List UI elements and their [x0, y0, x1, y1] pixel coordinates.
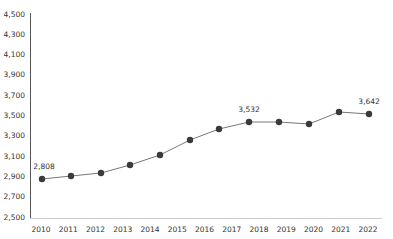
x-tick-label: 2018 [249, 225, 268, 234]
data-points [39, 109, 372, 182]
data-point [336, 109, 342, 115]
data-point [366, 111, 372, 117]
y-tick-label: 3,900 [4, 70, 26, 79]
x-tick-label: 2015 [168, 225, 187, 234]
data-point [127, 162, 133, 168]
y-tick-label: 3,100 [4, 152, 26, 161]
data-point [187, 137, 193, 143]
x-tick-label: 2017 [222, 225, 241, 234]
data-label: 3,642 [358, 97, 380, 106]
data-point [68, 173, 74, 179]
y-tick-label: 2,900 [4, 172, 26, 181]
y-tick-label: 2,500 [4, 213, 26, 222]
x-tick-label: 2011 [59, 225, 78, 234]
x-axis-tick-labels: 2010201120122013201420152016201720182019… [31, 225, 377, 234]
y-tick-label: 2,700 [4, 192, 26, 201]
series-line [42, 112, 369, 179]
data-point [306, 121, 312, 127]
x-tick-label: 2019 [277, 225, 296, 234]
line-chart: 2,5002,7002,9003,1003,3003,5003,7003,900… [0, 0, 393, 239]
y-tick-label: 4,500 [4, 10, 26, 19]
x-tick-label: 2020 [304, 225, 323, 234]
y-tick-label: 4,300 [4, 30, 26, 39]
x-tick-label: 2021 [331, 225, 350, 234]
y-tick-label: 3,700 [4, 91, 26, 100]
data-point [98, 170, 104, 176]
data-point [276, 119, 282, 125]
data-point [157, 152, 163, 158]
x-tick-label: 2010 [31, 225, 50, 234]
x-tick-label: 2014 [140, 225, 159, 234]
data-point [39, 176, 45, 182]
y-tick-label: 4,100 [4, 50, 26, 59]
data-label: 2,808 [33, 162, 55, 171]
x-tick-label: 2012 [86, 225, 105, 234]
y-tick-label: 3,300 [4, 131, 26, 140]
x-tick-label: 2022 [358, 225, 377, 234]
x-tick-label: 2016 [195, 225, 214, 234]
y-axis-tick-labels: 2,5002,7002,9003,1003,3003,5003,7003,900… [4, 10, 26, 222]
data-point [246, 119, 252, 125]
data-label: 3,532 [238, 105, 260, 114]
x-tick-label: 2013 [113, 225, 132, 234]
data-point [216, 126, 222, 132]
y-tick-label: 3,500 [4, 111, 26, 120]
